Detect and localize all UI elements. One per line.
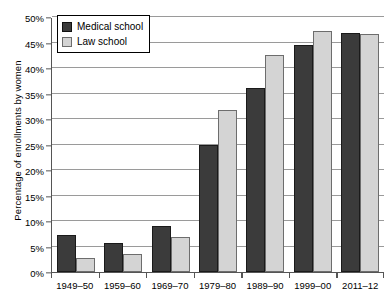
x-tick-mark	[336, 273, 337, 278]
y-tick-label: 20%	[25, 166, 44, 177]
y-tick-label: 0%	[30, 268, 44, 279]
bar-group	[99, 18, 146, 272]
bar-law[interactable]	[171, 237, 190, 272]
plot-area	[51, 18, 384, 273]
x-tick-text: 1959–60	[104, 280, 141, 291]
bar-medical[interactable]	[104, 243, 123, 272]
bar-group	[337, 18, 384, 272]
bar-groups	[52, 18, 384, 272]
bar-group	[242, 18, 289, 272]
x-tick-label: 1969–70	[146, 273, 194, 299]
x-tick-label: 1999–00	[289, 273, 337, 299]
y-tick-label: 45%	[25, 38, 44, 49]
bar-medical[interactable]	[199, 145, 218, 273]
x-tick-text: 1979–80	[199, 280, 236, 291]
legend-item[interactable]: Medical school	[62, 19, 143, 34]
chart-legend: Medical schoolLaw school	[57, 15, 150, 53]
legend-swatch-medical	[62, 22, 72, 32]
y-tick-label: 10%	[25, 217, 44, 228]
bar-medical[interactable]	[152, 226, 171, 272]
y-axis-title: Percentage of enrollments by women	[12, 16, 23, 266]
x-tick-label: 1979–80	[194, 273, 242, 299]
bar-law[interactable]	[265, 55, 284, 272]
x-tick-mark	[241, 273, 242, 278]
legend-item[interactable]: Law school	[62, 34, 143, 49]
bar-medical[interactable]	[294, 45, 313, 272]
bar-law[interactable]	[123, 254, 142, 272]
bar-medical[interactable]	[341, 33, 360, 272]
y-tick-label: 50%	[25, 13, 44, 24]
bar-group	[147, 18, 194, 272]
y-tick-label: 15%	[25, 191, 44, 202]
x-tick-label: 2011–12	[336, 273, 384, 299]
bar-group	[289, 18, 336, 272]
x-tick-text: 1999–00	[294, 280, 331, 291]
bar-medical[interactable]	[57, 235, 76, 272]
bar-law[interactable]	[76, 258, 95, 272]
legend-label: Law school	[77, 36, 127, 47]
x-tick-label: 1959–60	[99, 273, 147, 299]
x-tick-mark	[146, 273, 147, 278]
bar-law[interactable]	[218, 110, 237, 272]
bar-chart: Percentage of enrollments by women 0%5%1…	[0, 0, 392, 299]
bar-group	[194, 18, 241, 272]
bar-medical[interactable]	[246, 88, 265, 272]
x-tick-label: 1949–50	[51, 273, 99, 299]
y-tick-label: 40%	[25, 64, 44, 75]
x-tick-text: 1969–70	[151, 280, 188, 291]
bar-law[interactable]	[360, 34, 379, 272]
x-tick-mark	[289, 273, 290, 278]
legend-label: Medical school	[77, 21, 143, 32]
x-tick-label: 1989–90	[241, 273, 289, 299]
bar-law[interactable]	[313, 31, 332, 272]
x-tick-mark	[99, 273, 100, 278]
x-tick-text: 1949–50	[56, 280, 93, 291]
bar-group	[52, 18, 99, 272]
x-tick-mark	[194, 273, 195, 278]
y-tick-label: 30%	[25, 115, 44, 126]
y-tick-label: 5%	[30, 242, 44, 253]
y-tick-label: 35%	[25, 89, 44, 100]
x-axis-tick-mark-end	[383, 273, 384, 278]
legend-swatch-law	[62, 37, 72, 47]
x-tick-text: 1989–90	[247, 280, 284, 291]
x-axis-ticks: 1949–501959–601969–701979–801989–901999–…	[51, 273, 384, 299]
x-tick-mark	[51, 273, 52, 278]
x-tick-text: 2011–12	[342, 280, 378, 291]
y-tick-label: 25%	[25, 140, 44, 151]
